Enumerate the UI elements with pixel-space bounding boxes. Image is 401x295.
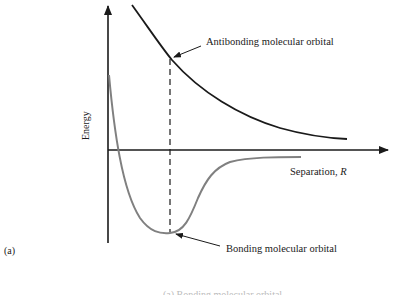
cropped-caption: (a) Bonding molecular orbital: [163, 288, 282, 295]
x-axis-label-text: Separation, R: [290, 166, 347, 177]
antibonding-pointer-arrow: [174, 46, 201, 57]
y-axis-label: Energy: [80, 111, 91, 140]
bonding-curve: [109, 75, 301, 233]
x-axis-label: Separation, R: [290, 166, 347, 177]
antibonding-curve: [132, 5, 347, 139]
bonding-pointer-arrow: [176, 234, 220, 246]
panel-label: (a): [4, 245, 15, 256]
bonding-label: Bonding molecular orbital: [226, 243, 337, 254]
energy-diagram: [0, 0, 401, 295]
antibonding-label: Antibonding molecular orbital: [206, 36, 334, 47]
